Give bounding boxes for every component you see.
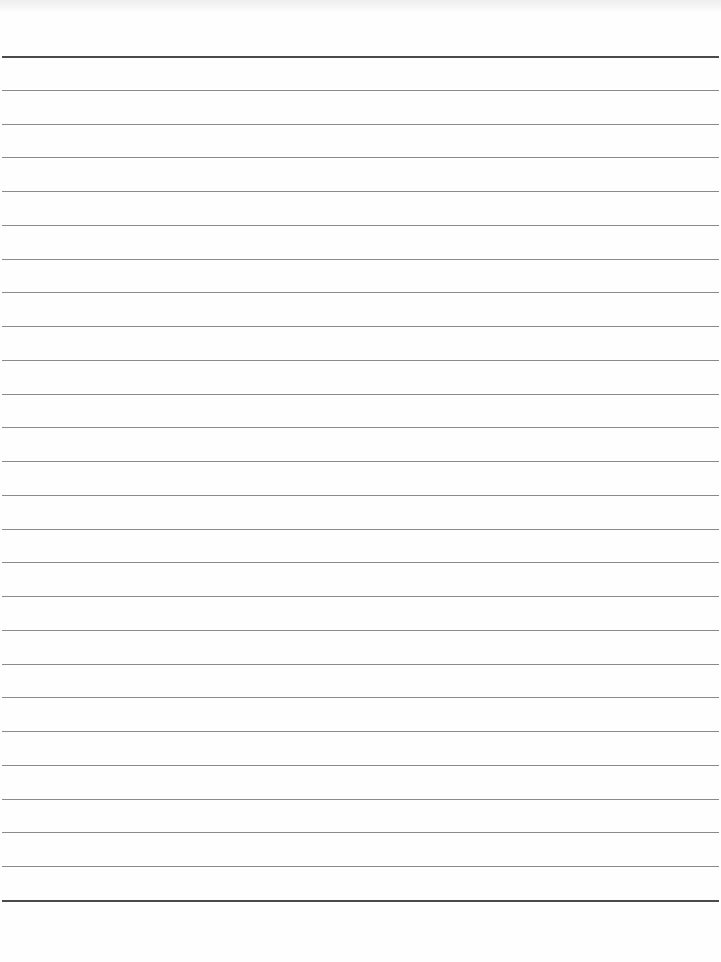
ruled-line (2, 900, 719, 902)
scan-edge-artifact (0, 0, 721, 12)
ruled-line (2, 225, 719, 226)
ruled-line (2, 866, 719, 867)
ruled-line (2, 90, 719, 91)
ruled-line (2, 765, 719, 766)
ruled-line (2, 326, 719, 327)
ruled-line (2, 596, 719, 597)
ruled-line (2, 292, 719, 293)
ruled-line (2, 157, 719, 158)
ruled-line (2, 461, 719, 462)
ruled-line (2, 529, 719, 530)
ruled-line (2, 664, 719, 665)
ruled-line (2, 360, 719, 361)
ruled-line (2, 427, 719, 428)
ruled-line (2, 799, 719, 800)
ruled-paper-page (0, 0, 721, 962)
ruled-line (2, 495, 719, 496)
ruled-line (2, 562, 719, 563)
ruled-line (2, 731, 719, 732)
ruled-line (2, 124, 719, 125)
ruled-line (2, 697, 719, 698)
ruled-line (2, 191, 719, 192)
ruled-line (2, 259, 719, 260)
ruled-line (2, 832, 719, 833)
ruled-line (2, 56, 719, 58)
ruled-line (2, 394, 719, 395)
ruled-line (2, 630, 719, 631)
